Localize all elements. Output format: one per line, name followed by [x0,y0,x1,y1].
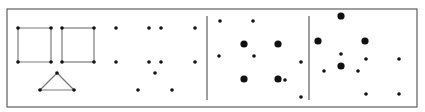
large-dot [274,40,281,47]
large-dot [274,75,281,82]
small-dot [159,60,163,64]
small-dot [49,26,53,30]
large-dot [337,12,344,19]
small-dot [170,88,174,92]
small-dot [159,26,163,30]
small-dot [299,60,303,64]
small-dot [218,19,222,23]
large-dot [240,75,247,82]
small-dot [397,57,401,61]
small-dot [114,26,118,30]
small-dot [92,60,96,64]
large-dot [337,62,344,69]
small-dot [60,26,64,30]
small-dot [322,69,326,73]
small-dot [252,54,256,58]
perceptual-grouping-figure [0,0,425,112]
small-dot [16,26,20,30]
small-dot [92,26,96,30]
large-dot [240,40,247,47]
small-dot [193,26,197,30]
small-dot [136,88,140,92]
large-dot [314,37,321,44]
small-dot [193,60,197,64]
small-dot [397,92,401,96]
small-dot [251,19,255,23]
small-dot [356,69,360,73]
small-dot [299,95,303,99]
small-dot [16,60,20,64]
small-dot [364,92,368,96]
figure-background [0,0,425,112]
small-dot [217,54,221,58]
large-dot [361,37,368,44]
small-dot [55,71,59,75]
small-dot [147,26,151,30]
small-dot [147,60,151,64]
small-dot [283,78,287,82]
small-dot [60,60,64,64]
small-dot [38,88,42,92]
small-dot [364,57,368,61]
small-dot [339,52,343,56]
small-dot [114,60,118,64]
small-dot [72,88,76,92]
small-dot [153,71,157,75]
small-dot [49,60,53,64]
